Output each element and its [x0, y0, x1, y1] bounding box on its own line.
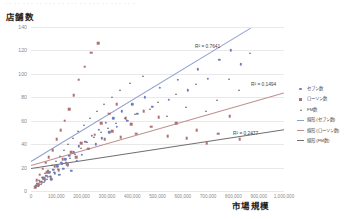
data-point	[83, 66, 86, 69]
data-point	[51, 164, 53, 166]
y-tick-label: 0	[24, 188, 27, 194]
legend-item[interactable]: セブン数	[297, 86, 339, 92]
x-tick-label: 300,000	[99, 194, 116, 199]
data-point	[131, 103, 133, 105]
x-tick-label: 700,000	[200, 194, 217, 199]
data-point	[134, 113, 136, 115]
data-point	[185, 106, 187, 108]
legend-item[interactable]: FM数	[297, 107, 339, 113]
gridline-y	[31, 27, 284, 28]
data-point	[83, 124, 85, 126]
data-point	[238, 138, 241, 141]
data-point	[103, 103, 105, 105]
data-point	[47, 169, 49, 171]
data-point	[97, 42, 100, 45]
data-point	[41, 167, 44, 170]
data-point	[100, 122, 103, 125]
data-point	[238, 89, 240, 91]
gridline-y	[31, 191, 284, 192]
gridline-y	[31, 121, 284, 122]
y-tick-label: 80	[21, 94, 27, 100]
data-point	[217, 132, 220, 135]
data-point	[58, 173, 60, 175]
gridline-y	[31, 168, 284, 169]
x-axis-title: 市場規模	[232, 199, 269, 211]
data-point	[86, 141, 88, 143]
legend-item-label: ローソン数	[307, 96, 327, 102]
legend-item[interactable]: 線形 (ローソン数)	[297, 128, 339, 134]
data-point	[187, 89, 189, 91]
data-point	[74, 153, 76, 155]
data-point	[197, 68, 199, 70]
data-point	[121, 110, 123, 112]
legend-item-label: 線形 (セブン数)	[307, 117, 335, 123]
y-tick-label: 60	[21, 118, 27, 124]
data-point	[51, 149, 54, 152]
data-point	[240, 63, 242, 65]
data-point	[96, 110, 98, 112]
data-point	[44, 172, 46, 174]
data-point	[63, 149, 65, 151]
data-point	[100, 131, 102, 133]
data-point	[77, 130, 79, 132]
line-marker-icon	[297, 120, 304, 121]
x-tick-label: 100,000	[48, 194, 65, 199]
data-point	[60, 129, 63, 132]
data-point	[87, 148, 90, 151]
triangle-marker-icon	[297, 109, 304, 111]
gridline-y	[31, 50, 284, 51]
x-tick-label: 1,000,000	[274, 194, 294, 199]
x-tick-label: 0	[30, 194, 33, 199]
data-point	[115, 122, 117, 124]
gridline-y	[31, 74, 284, 75]
x-tick-label: 500,000	[149, 194, 166, 199]
data-point	[70, 170, 72, 172]
data-point	[195, 83, 197, 85]
legend-item-label: セブン数	[307, 86, 323, 92]
y-tick-label: 140	[18, 24, 27, 30]
legend-item-label: 線形 (FM数)	[307, 138, 329, 144]
data-point	[72, 137, 74, 139]
data-point	[37, 185, 39, 187]
data-point	[130, 123, 133, 126]
data-point	[49, 175, 51, 177]
data-point	[150, 125, 153, 128]
r2-fm-label: R² = 0.2477	[233, 131, 258, 136]
legend-item[interactable]: ローソン数	[297, 96, 339, 102]
legend-item-label: FM数	[307, 107, 317, 113]
data-point	[142, 110, 145, 113]
chart-legend: セブン数ローソン数FM数線形 (セブン数)線形 (ローソン数)線形 (FM数)	[297, 86, 339, 144]
data-point	[175, 93, 177, 95]
data-point	[80, 153, 82, 155]
y-tick-label: 100	[18, 71, 27, 77]
data-point	[129, 82, 131, 84]
data-point	[44, 162, 47, 165]
data-point	[104, 138, 107, 141]
data-point	[112, 117, 114, 119]
square-marker-icon	[297, 98, 304, 101]
data-point	[46, 178, 48, 180]
data-point	[53, 171, 55, 173]
data-point	[64, 119, 67, 122]
data-point	[80, 147, 82, 149]
data-point	[89, 117, 91, 119]
data-point	[93, 136, 95, 138]
data-point	[77, 78, 80, 81]
x-tick-label: 200,000	[73, 194, 90, 199]
x-tick-label: 400,000	[124, 194, 141, 199]
data-point	[185, 137, 188, 140]
data-point	[68, 108, 71, 111]
data-point	[80, 142, 83, 145]
data-point	[166, 115, 168, 117]
scatter-chart-figure: ・・・・・・・・・・・・・・・・・・・・・・・・・・・・・・ 店舗数 02040…	[0, 0, 350, 219]
data-point	[207, 77, 209, 79]
data-point	[40, 183, 42, 185]
y-tick-label: 40	[21, 141, 27, 147]
circle-marker-icon	[297, 88, 304, 90]
legend-item[interactable]: 線形 (FM数)	[297, 138, 339, 144]
plot-area: 0204060801001201400100,000200,000300,000…	[31, 27, 284, 191]
data-point	[53, 165, 56, 168]
data-point	[205, 110, 207, 112]
legend-item[interactable]: 線形 (セブン数)	[297, 117, 339, 123]
data-point	[120, 136, 123, 139]
